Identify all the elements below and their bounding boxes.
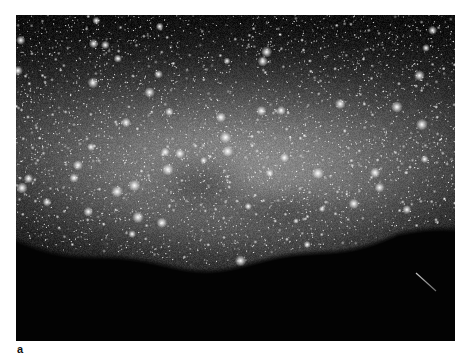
night-sky-photo [16,15,455,341]
figure-panel: a [0,0,465,358]
milky-way-image [16,15,455,341]
panel-label: a [17,343,23,355]
